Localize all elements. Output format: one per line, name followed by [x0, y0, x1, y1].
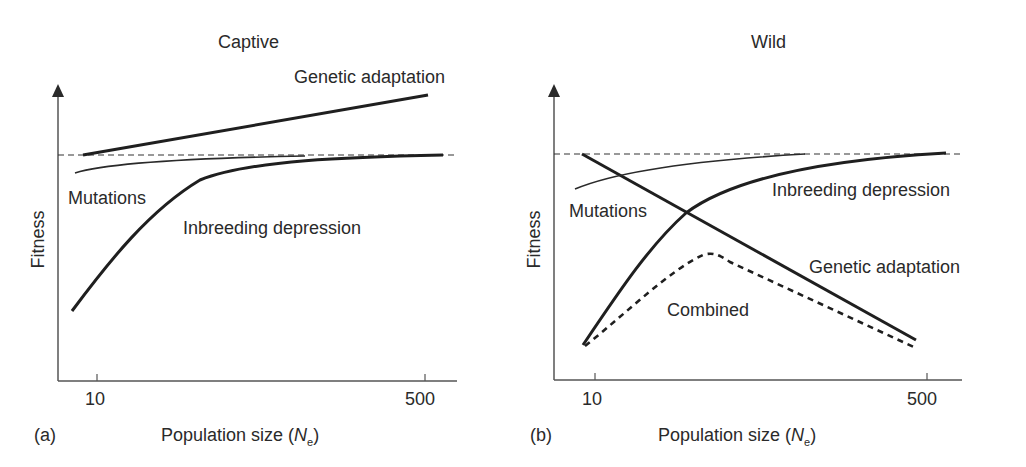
tick-label-500-a: 500 — [405, 389, 435, 410]
x-axis-variable: N — [294, 425, 307, 445]
x-axis-label-a: Population size (Ne) — [161, 425, 319, 448]
panel-b-plot — [548, 84, 962, 380]
y-axis-arrow-icon — [548, 84, 560, 97]
figure-canvas — [0, 0, 1026, 467]
panel-b-title: Wild — [751, 32, 786, 53]
label-mutations-a: Mutations — [68, 188, 146, 209]
y-axis-label-b: Fitness — [524, 210, 545, 270]
x-axis-label-text: Population size ( — [161, 425, 294, 445]
x-axis-label-text: Population size ( — [658, 425, 791, 445]
label-genetic-adaptation-b: Genetic adaptation — [809, 257, 960, 278]
x-axis-variable: N — [791, 425, 804, 445]
x-axis-label-b: Population size (Ne) — [658, 425, 816, 448]
mutations-line-b — [575, 154, 805, 189]
label-inbreeding-a: Inbreeding depression — [183, 218, 361, 239]
tick-label-500-b: 500 — [907, 389, 937, 410]
genetic-adaptation-line-a — [83, 95, 428, 155]
label-inbreeding-b: Inbreeding depression — [772, 180, 950, 201]
x-axis-label-close: ) — [313, 425, 319, 445]
tick-label-10-b: 10 — [582, 389, 602, 410]
label-genetic-adaptation-a: Genetic adaptation — [294, 67, 445, 88]
panel-label-a: (a) — [34, 425, 56, 446]
y-axis-arrow-icon — [52, 84, 64, 97]
x-axis-label-close: ) — [810, 425, 816, 445]
y-axis-label-a: Fitness — [28, 210, 49, 270]
label-mutations-b: Mutations — [569, 201, 647, 222]
panel-a-title: Captive — [218, 32, 279, 53]
panel-label-b: (b) — [530, 425, 552, 446]
tick-label-10-a: 10 — [85, 389, 105, 410]
label-combined-b: Combined — [667, 300, 749, 321]
